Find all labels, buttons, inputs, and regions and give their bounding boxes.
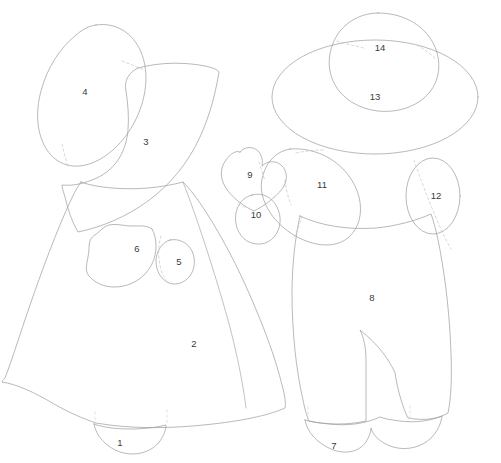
piece-label-9: 9 (247, 169, 252, 180)
piece-8-outline (292, 214, 451, 424)
piece-4-outline (38, 25, 146, 167)
pattern-drawing-canvas: 1 2 3 4 5 6 7 8 9 10 11 12 13 14 (0, 0, 501, 463)
piece-7-outline (305, 416, 442, 452)
seam-back-arm (414, 160, 451, 249)
piece-2-outline (2, 182, 285, 428)
seam-crown-right (417, 45, 436, 59)
piece-label-12: 12 (431, 190, 442, 201)
seam-crown-left (337, 41, 364, 48)
piece-14-outline (329, 13, 439, 111)
piece-label-13: 13 (370, 91, 381, 102)
piece-label-7: 7 (331, 440, 336, 451)
piece-label-11: 11 (317, 179, 327, 190)
figure-bonnet-girl (2, 25, 285, 454)
piece-5-outline (156, 240, 194, 284)
piece-label-8: 8 (369, 292, 374, 303)
piece-number-labels: 1 2 3 4 5 6 7 8 9 10 11 12 13 14 (82, 42, 441, 451)
figure-hat-boy (221, 13, 478, 452)
seam-bonnet-top-right (122, 61, 144, 70)
piece-label-14: 14 (375, 42, 386, 53)
piece-6-outline (86, 224, 156, 287)
piece-11-outline (261, 149, 360, 245)
piece-label-3: 3 (143, 136, 148, 147)
piece-label-2: 2 (191, 338, 196, 349)
piece-label-1: 1 (117, 437, 122, 448)
seam-sleeve-cuff (285, 180, 291, 205)
piece-9-outline (221, 148, 286, 212)
piece-label-5: 5 (176, 256, 181, 267)
piece-label-6: 6 (134, 243, 139, 254)
pattern-sheet: 1 2 3 4 5 6 7 8 9 10 11 12 13 14 (0, 0, 501, 463)
piece-label-10: 10 (251, 209, 262, 220)
piece-label-4: 4 (82, 86, 87, 97)
piece-1-outline (94, 424, 166, 454)
piece-2-inner-line (183, 182, 246, 408)
